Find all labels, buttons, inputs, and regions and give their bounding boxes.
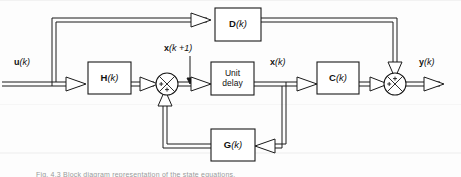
- signal-label-u: u(k): [14, 58, 30, 67]
- block-C[interactable]: [317, 62, 359, 94]
- arrowhead-into-D: [191, 13, 211, 27]
- arrowhead-output-y: [424, 77, 444, 91]
- block-H[interactable]: [88, 62, 131, 94]
- block-G[interactable]: [211, 129, 255, 161]
- signal-y-arg: (k): [424, 57, 435, 67]
- path-state-to-G: [263, 82, 286, 148]
- signal-label-y: y(k): [419, 58, 435, 67]
- block-unit-delay[interactable]: [211, 62, 254, 95]
- arrowhead-into-summer: [140, 77, 158, 91]
- block-D[interactable]: [215, 8, 261, 41]
- summing-junction-output[interactable]: [384, 73, 406, 95]
- arrowhead-into-H: [66, 77, 86, 91]
- diagram-canvas: .ln{stroke:#1a1a1a;stroke-width:1;fill:n…: [0, 0, 461, 177]
- signal-x-next-arg: (k +1): [169, 43, 192, 53]
- signal-label-x: x(k): [270, 58, 286, 67]
- signal-u-arg: (k): [20, 57, 31, 67]
- signal-x-arg: (k): [275, 57, 286, 67]
- figure-caption: Fig. 4.3 Block diagram representation of…: [36, 171, 235, 177]
- arrowhead-into-C: [297, 77, 317, 91]
- arrowhead-into-G: [255, 139, 275, 153]
- signal-label-x-next: x(k +1): [164, 44, 192, 53]
- summing-junction-state[interactable]: [156, 73, 178, 95]
- block-diagram-figure: .ln{stroke:#1a1a1a;stroke-width:1;fill:n…: [0, 0, 461, 177]
- arrowhead-into-unit-delay: [191, 77, 211, 91]
